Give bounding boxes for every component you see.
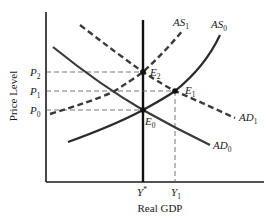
ad0-label: AD0 — [212, 139, 232, 154]
e2-label: E2 — [149, 66, 161, 81]
ad1-label: AD1 — [238, 111, 258, 126]
y-axis-title: Price Level — [7, 71, 19, 121]
ad-as-diagram: AS1 AS0 AD1 AD0 E2 E1 E0 P2 P1 P0 Y* Y1 … — [0, 0, 271, 217]
p0-label: P0 — [29, 104, 41, 119]
e1-point — [172, 88, 178, 94]
as1-label: AS1 — [172, 16, 189, 31]
p2-label: P2 — [29, 66, 41, 81]
as1-curve — [50, 30, 183, 114]
x-axis-title: Real GDP — [138, 202, 183, 214]
y-star-label: Y* — [137, 185, 147, 198]
e0-point — [140, 107, 146, 113]
as0-label: AS0 — [210, 18, 227, 33]
p1-label: P1 — [29, 85, 41, 100]
e2-point — [140, 69, 146, 75]
y1-label: Y1 — [171, 186, 181, 201]
